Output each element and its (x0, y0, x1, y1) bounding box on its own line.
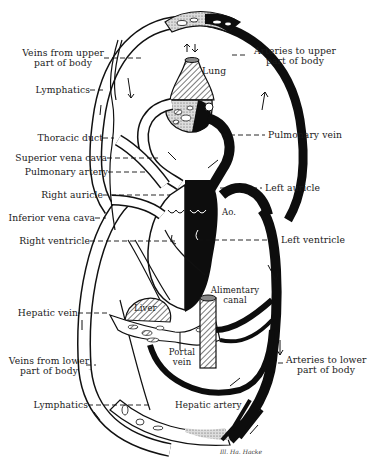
label-lymphatics-upper: Lymphatics (20, 85, 90, 95)
label-left-ventricle: Left ventricle (281, 235, 345, 245)
label-thoracic-duct: Thoracic duct (20, 133, 103, 143)
label-left-auricle: Left auricle (265, 183, 320, 193)
label-veins-lower: Veins from lower part of body (8, 356, 90, 376)
label-pulmonary-artery: Pulmonary artery (5, 167, 108, 177)
alimentary-canal (200, 295, 216, 368)
label-right-auricle: Right auricle (5, 190, 103, 200)
artist-signature: Ill. Ha. Hacke (220, 448, 262, 455)
label-inferior-vena-cava: Inferior vena cava (2, 213, 95, 223)
label-hepatic-artery: Hepatic artery (175, 400, 242, 410)
label-arteries-lower: Arteries to lower part of body (286, 355, 366, 375)
label-veins-upper: Veins from upper part of body (22, 48, 104, 68)
label-lymphatics-lower: Lymphatics (2, 400, 88, 410)
label-superior-vena-cava: Superior vena cava (5, 153, 107, 163)
label-liver: Liver (134, 303, 157, 313)
label-alimentary-canal: Alimentary canal (205, 285, 265, 305)
label-aorta: Ao. (222, 207, 236, 217)
label-lung: Lung (202, 66, 226, 76)
label-arteries-upper: Arteries to upper part of body (248, 46, 342, 66)
label-pulmonary-vein: Pulmonary vein (268, 130, 342, 140)
label-hepatic-vein: Hepatic vein (2, 308, 78, 318)
label-right-ventricle: Right ventricle (2, 236, 90, 246)
circulation-diagram (0, 0, 371, 465)
pulmonary-vein-vessel (208, 118, 230, 190)
label-portal-vein: Portal vein (164, 347, 200, 367)
upper-body-capillaries (165, 12, 240, 33)
